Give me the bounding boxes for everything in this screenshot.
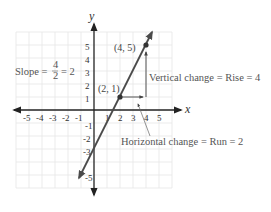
x-tick-labels: -5 -4 -3 -2 -1 1 2 3 4 5 [23,113,162,123]
svg-text:5: 5 [157,113,162,123]
line-y-equals-2x-minus-3 [79,32,152,178]
svg-text:-5: -5 [23,113,31,123]
svg-text:1: 1 [85,94,90,104]
svg-text:= 2: = 2 [61,66,75,77]
point-4-5-label: (4, 5) [114,42,136,54]
svg-text:4: 4 [85,55,90,65]
run-annotation: Horizontal change = Run = 2 [121,136,243,147]
svg-text:3: 3 [131,113,136,123]
svg-text:-5: -5 [85,173,93,183]
svg-text:-3: -3 [49,113,57,123]
point-4-5 [143,42,148,47]
svg-text:2: 2 [85,81,90,91]
svg-text:3: 3 [85,68,90,78]
svg-text:2: 2 [118,113,123,123]
svg-text:-4: -4 [36,113,44,123]
svg-text:-1: -1 [85,121,93,131]
svg-text:Slope =: Slope = [15,66,48,77]
svg-text:4: 4 [53,59,59,70]
y-axis-label: y [88,9,95,23]
slope-graph: x y -5 -4 -3 -2 -1 1 2 3 4 5 5 4 3 2 1 -… [0,0,271,212]
slope-annotation: Slope = 4 2 = 2 [15,59,75,81]
svg-text:5: 5 [85,42,90,52]
rise-annotation: Vertical change = Rise = 4 [149,72,261,83]
svg-text:-1: -1 [75,113,83,123]
point-2-1-label: (2, 1) [98,83,120,95]
x-axis-label: x [184,102,191,116]
svg-text:-2: -2 [62,113,70,123]
svg-text:-2: -2 [83,134,91,144]
point-2-1 [117,94,122,99]
svg-text:2: 2 [53,70,58,81]
